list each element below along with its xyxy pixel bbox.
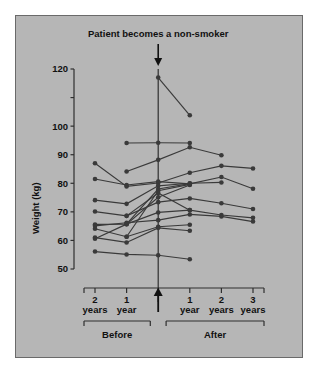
data-point [219, 214, 224, 219]
group-bracket-label: Before [102, 329, 132, 340]
data-point [251, 207, 256, 212]
data-point [156, 210, 161, 215]
series-line [124, 145, 223, 174]
data-point [156, 253, 161, 258]
data-point [156, 191, 161, 196]
chart-title: Patient becomes a non-smoker [88, 28, 229, 39]
data-point [219, 201, 224, 206]
y-axis: 5060708090100120 [52, 63, 74, 274]
data-point [188, 113, 193, 118]
y-tick-label: 90 [57, 149, 68, 160]
data-point [156, 226, 161, 231]
data-point [219, 180, 224, 185]
x-tick-unit: year [180, 304, 200, 315]
chart-svg: Patient becomes a non-smoker 50607080901… [16, 16, 304, 359]
series-line [93, 226, 192, 245]
data-point [156, 179, 161, 184]
x-tick-unit: years [241, 304, 266, 315]
series-line [156, 75, 192, 117]
chart-panel: Weight (kg) Patient becomes a non-smoker… [15, 15, 303, 358]
data-point [219, 153, 224, 158]
x-tick-unit: year [117, 304, 137, 315]
y-tick-label: 120 [52, 63, 68, 74]
data-point [93, 226, 98, 231]
group-bracket-label: After [204, 329, 226, 340]
data-point [188, 141, 193, 146]
data-point [124, 141, 129, 146]
data-point [93, 209, 98, 214]
data-point [251, 186, 256, 191]
x-tick-unit: years [83, 304, 108, 315]
top-arrow-icon [154, 44, 162, 66]
data-point [251, 166, 256, 171]
y-tick-label: 70 [57, 206, 68, 217]
data-point [156, 218, 161, 223]
data-point [156, 187, 161, 192]
data-point [188, 228, 193, 233]
data-point [219, 164, 224, 169]
data-point [156, 140, 161, 145]
data-point [188, 170, 193, 175]
chart-page: Weight (kg) Patient becomes a non-smoker… [0, 0, 320, 375]
data-point [188, 222, 193, 227]
data-point [124, 252, 129, 257]
group-bracket: Before [84, 321, 150, 340]
data-point [251, 219, 256, 224]
y-tick-label: 60 [57, 235, 68, 246]
data-point [188, 257, 193, 262]
data-point [124, 202, 129, 207]
series-line [93, 175, 256, 191]
series-line [124, 140, 192, 145]
data-point [93, 249, 98, 254]
data-point [188, 196, 193, 201]
x-tick-unit: years [209, 304, 234, 315]
data-point [124, 183, 129, 188]
data-point [156, 195, 161, 200]
data-point [219, 175, 224, 180]
data-point [188, 145, 193, 150]
data-point [188, 212, 193, 217]
data-point [156, 158, 161, 163]
data-point [156, 75, 161, 80]
data-point [124, 240, 129, 245]
data-point [188, 181, 193, 186]
data-point [124, 214, 129, 219]
data-point [124, 169, 129, 174]
y-tick-label: 100 [52, 121, 68, 132]
data-point [156, 200, 161, 205]
data-point [93, 177, 98, 182]
data-point [124, 222, 129, 227]
series-line [93, 249, 192, 261]
group-bracket: After [166, 321, 264, 340]
data-point [93, 236, 98, 241]
data-point [188, 208, 193, 213]
series-line [93, 196, 256, 218]
data-point [124, 234, 129, 239]
x-axis-ruler [84, 288, 264, 293]
data-point [93, 198, 98, 203]
y-tick-label: 50 [57, 263, 68, 274]
bottom-arrow-icon [154, 288, 163, 313]
data-point [93, 161, 98, 166]
y-tick-label: 80 [57, 178, 68, 189]
